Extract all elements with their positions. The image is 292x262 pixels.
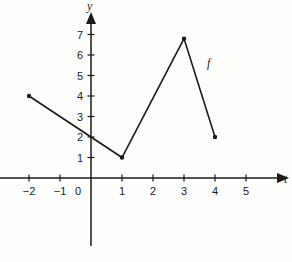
x-tick-label: −2 bbox=[23, 185, 36, 197]
y-tick-label: 1 bbox=[77, 152, 83, 164]
data-point bbox=[182, 36, 186, 40]
x-tick-label: 5 bbox=[243, 185, 249, 197]
series-f bbox=[27, 36, 217, 159]
plot-area: t y f −2−10123451234567 bbox=[0, 0, 292, 262]
x-tick-label: 0 bbox=[75, 185, 81, 197]
x-tick-label: 4 bbox=[212, 185, 218, 197]
x-tick-label: −1 bbox=[54, 185, 67, 197]
y-tick-label: 2 bbox=[77, 131, 83, 143]
function-graph: t y f −2−10123451234567 bbox=[0, 0, 292, 262]
function-line bbox=[29, 39, 215, 158]
y-tick-label: 5 bbox=[77, 70, 83, 82]
y-tick-label: 4 bbox=[77, 90, 83, 102]
y-tick-label: 6 bbox=[77, 49, 83, 61]
x-axis-label: t bbox=[284, 172, 288, 186]
function-label: f bbox=[207, 56, 212, 70]
y-axis-arrow-icon bbox=[86, 12, 96, 24]
y-tick-label: 7 bbox=[77, 29, 83, 41]
x-tick-label: 3 bbox=[181, 185, 187, 197]
y-tick-label: 3 bbox=[77, 111, 83, 123]
x-tick-label: 2 bbox=[150, 185, 156, 197]
axis-ticks: −2−10123451234567 bbox=[23, 29, 249, 198]
x-tick-label: 1 bbox=[119, 185, 125, 197]
data-point bbox=[213, 135, 217, 139]
data-point bbox=[120, 155, 124, 159]
y-axis-label: y bbox=[86, 0, 93, 13]
data-point bbox=[27, 94, 31, 98]
